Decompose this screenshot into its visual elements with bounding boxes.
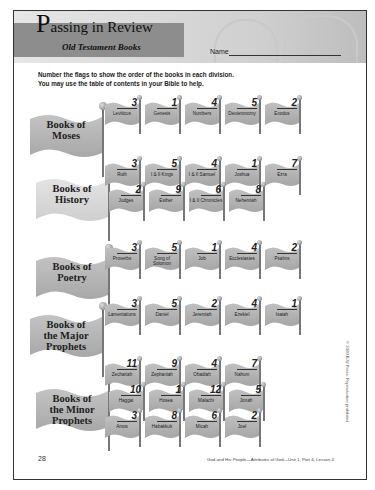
flag-knob-icon [217,356,222,361]
order-number[interactable]: 10 [130,385,141,395]
book-flag[interactable]: 4Ezekiel [225,299,263,333]
order-number[interactable]: 11 [127,359,137,369]
order-number[interactable]: 7 [251,359,257,369]
copyright-notice: © 2000 BJU Press. Reproduction prohibite… [345,341,350,423]
number-blank [197,253,217,254]
book-flag[interactable]: 2Psalms [265,243,303,277]
order-number[interactable]: 1 [171,98,177,108]
book-flag[interactable]: 6I & II Chronicles [189,185,227,219]
flag-knob-icon [137,356,142,361]
order-number[interactable]: 4 [211,98,217,108]
book-flag[interactable]: 5Song of Solomon [145,243,183,277]
order-number[interactable]: 8 [171,411,177,421]
order-number[interactable]: 6 [211,411,217,421]
division-flag: Books ofHistory [36,171,116,227]
flag-knob-icon [261,182,266,187]
book-name: Habakkuk [145,424,179,429]
flag-knob-icon [217,156,222,161]
order-number[interactable]: 5 [251,98,257,108]
order-number[interactable]: 5 [171,243,177,253]
number-blank [237,421,257,422]
book-name: Lamentations [105,312,139,317]
book-flag[interactable]: 6Micah [185,411,223,445]
order-number[interactable]: 3 [131,411,137,421]
book-name: Daniel [145,312,179,317]
flag-knob-icon [257,356,262,361]
book-flag[interactable]: 2Judges [109,185,147,219]
book-flag[interactable]: 5Daniel [145,299,183,333]
book-name: Deuteronomy [225,111,259,116]
order-number[interactable]: 1 [291,299,297,309]
order-number[interactable]: 4 [211,159,217,169]
order-number[interactable]: 2 [291,98,297,108]
number-blank [117,108,137,109]
book-flag[interactable]: 4Ecclesiastes [225,243,263,277]
book-flag[interactable]: 1Genesis [145,98,183,132]
name-label: Name [210,48,229,55]
book-flag[interactable]: 3Lamentations [105,299,143,333]
book-name: Joshua [225,172,259,177]
order-number[interactable]: 9 [175,185,181,195]
order-number[interactable]: 1 [251,159,257,169]
flag-knob-icon [257,240,262,245]
order-number[interactable]: 3 [131,159,137,169]
order-number[interactable]: 5 [255,385,261,395]
division-label: Books ofMoses [30,119,102,141]
book-flag[interactable]: 2Jeremiah [185,299,223,333]
division-flag: Books ofthe MinorProphets [36,381,116,437]
book-flag[interactable]: 1Isaiah [265,299,303,333]
order-number[interactable]: 3 [131,98,137,108]
order-number[interactable]: 7 [291,159,297,169]
order-number[interactable]: 2 [291,243,297,253]
number-blank [237,169,257,170]
flag-pole [183,185,185,221]
book-flag[interactable]: 1Job [185,243,223,277]
order-number[interactable]: 4 [211,359,217,369]
book-flag[interactable]: 3Proverbs [105,243,143,277]
order-number[interactable]: 5 [171,299,177,309]
order-number[interactable]: 3 [131,243,137,253]
book-flag[interactable]: 8Habakkuk [145,411,183,445]
order-number[interactable]: 9 [171,359,177,369]
number-blank [157,421,177,422]
division-label: Books ofHistory [36,183,108,205]
book-name: Ruth [105,172,139,177]
book-flag[interactable]: 5Deuteronomy [225,98,263,132]
number-blank [277,169,297,170]
flag-pole [299,159,301,195]
order-number[interactable]: 4 [251,299,257,309]
book-flag[interactable]: 2Joel [225,411,263,445]
flag-knob-icon [181,182,186,187]
book-flag[interactable]: 7Ezra [265,159,303,193]
flag-knob-icon [217,408,222,413]
order-number[interactable]: 6 [215,185,221,195]
order-number[interactable]: 2 [251,411,257,421]
flag-knob-icon [141,182,146,187]
order-number[interactable]: 1 [175,385,181,395]
order-number[interactable]: 3 [131,299,137,309]
order-number[interactable]: 12 [210,385,221,395]
name-field[interactable] [229,55,341,56]
order-number[interactable]: 2 [135,185,141,195]
book-name: Micah [185,424,219,429]
instructions: Number the flags to show the order of th… [38,70,234,88]
book-name: Malachi [189,398,223,403]
book-flag[interactable]: 9Esther [149,185,187,219]
book-flag[interactable]: 8Nehemiah [229,185,267,219]
order-number[interactable]: 4 [251,243,257,253]
order-number[interactable]: 5 [171,159,177,169]
book-flag[interactable]: 2Exodus [265,98,303,132]
flag-knob-icon [221,182,226,187]
flag-pole [263,385,265,421]
order-number[interactable]: 8 [255,185,261,195]
flag-knob-icon [257,95,262,100]
order-number[interactable]: 2 [211,299,217,309]
flag-pole [259,411,261,447]
order-number[interactable]: 1 [211,243,217,253]
book-flag[interactable]: 3Amos [105,411,143,445]
flag-knob-icon [177,408,182,413]
book-flag[interactable]: 4Numbers [185,98,223,132]
book-name: Job [185,256,219,261]
flag-knob-icon [177,156,182,161]
book-flag[interactable]: 3Leviticus [105,98,143,132]
